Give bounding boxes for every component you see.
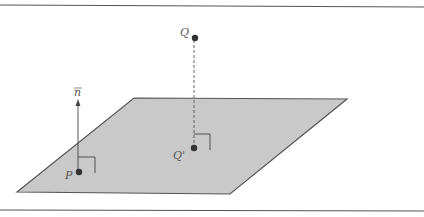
arrow-head-icon (76, 99, 81, 106)
label-q: Q (180, 26, 189, 39)
label-q-prime: Q' (173, 149, 185, 162)
point-p (76, 169, 82, 175)
label-p: P (64, 169, 73, 182)
bottom-rule (0, 210, 424, 211)
point-q-prime (191, 145, 197, 151)
diagram-canvas: Q Q' P n (0, 0, 424, 217)
point-q (192, 35, 198, 41)
top-rule (0, 5, 424, 7)
